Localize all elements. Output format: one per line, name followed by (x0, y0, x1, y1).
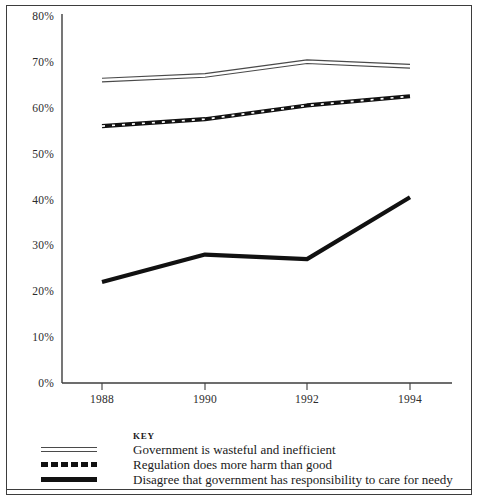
chart-legend: KEY Government is wasteful and inefficie… (7, 431, 471, 494)
legend-item-label: Regulation does more harm than good (133, 457, 332, 472)
dashed-line-swatch (41, 457, 97, 472)
legend-item-label: Government is wasteful and inefficient (133, 442, 336, 457)
x-axis-tick-1994: 1994 (375, 393, 445, 405)
double-line-swatch (41, 442, 97, 457)
x-axis-tick-1990: 1990 (170, 393, 240, 405)
legend-item: Disagree that government has responsibil… (7, 472, 471, 487)
double-line-swatch-mark (41, 447, 97, 452)
legend-divider (7, 489, 471, 490)
chart-plot-region: 0%10%20%30%40%50%60%70%80% 1988199019921… (0, 0, 478, 425)
x-axis-tick-labels: 1988199019921994 (0, 0, 478, 425)
dashed-line-swatch-mark (41, 462, 97, 467)
chart-page: 0%10%20%30%40%50%60%70%80% 1988199019921… (0, 0, 478, 501)
solid-line-swatch-mark (41, 477, 97, 482)
legend-item: Government is wasteful and inefficient (7, 442, 471, 457)
legend-title: KEY (133, 431, 155, 441)
legend-items: Government is wasteful and inefficientRe… (7, 442, 471, 487)
legend-item: Regulation does more harm than good (7, 457, 471, 472)
solid-line-swatch (41, 472, 97, 487)
x-axis-tick-1992: 1992 (272, 393, 342, 405)
legend-item-label: Disagree that government has responsibil… (133, 472, 453, 487)
x-axis-tick-1988: 1988 (67, 393, 137, 405)
